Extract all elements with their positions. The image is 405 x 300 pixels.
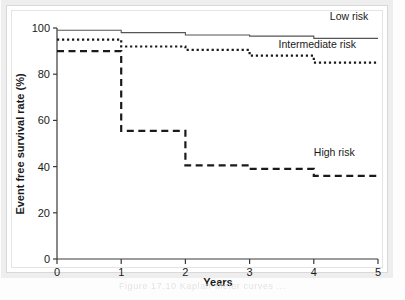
x-tick-label: 2	[182, 266, 188, 278]
x-tick-label: 1	[118, 266, 124, 278]
y-tick-label: 20	[38, 207, 50, 219]
y-tick-label: 40	[38, 161, 50, 173]
series-label-intermediate-risk: Intermediate risk	[278, 38, 356, 50]
x-tick-label: 5	[375, 266, 381, 278]
y-tick-label: 0	[44, 253, 50, 265]
survival-chart: 020406080100 012345 Low riskIntermediate…	[0, 0, 405, 300]
x-tick-label: 3	[247, 266, 253, 278]
y-tick-label: 80	[38, 68, 50, 80]
series-label-low-risk: Low risk	[330, 10, 369, 22]
y-tick-label: 100	[32, 22, 50, 34]
y-axis-tick-labels: 020406080100	[32, 22, 50, 265]
y-tick-label: 60	[38, 114, 50, 126]
chart-svg: 020406080100 012345 Low riskIntermediate…	[0, 0, 405, 300]
x-tick-label: 0	[54, 266, 60, 278]
scanned-page: 020406080100 012345 Low riskIntermediate…	[0, 0, 405, 300]
x-tick-label: 4	[311, 266, 317, 278]
y-axis-title: Event free survival rate (%)	[14, 73, 26, 215]
x-axis-ticks	[57, 259, 378, 264]
series-label-layer: Low riskIntermediate riskHigh risk	[278, 10, 369, 158]
series-label-high-risk: High risk	[314, 146, 356, 158]
figure-caption: Figure 17.10 Kaplan-Meier curves ...	[0, 281, 405, 291]
